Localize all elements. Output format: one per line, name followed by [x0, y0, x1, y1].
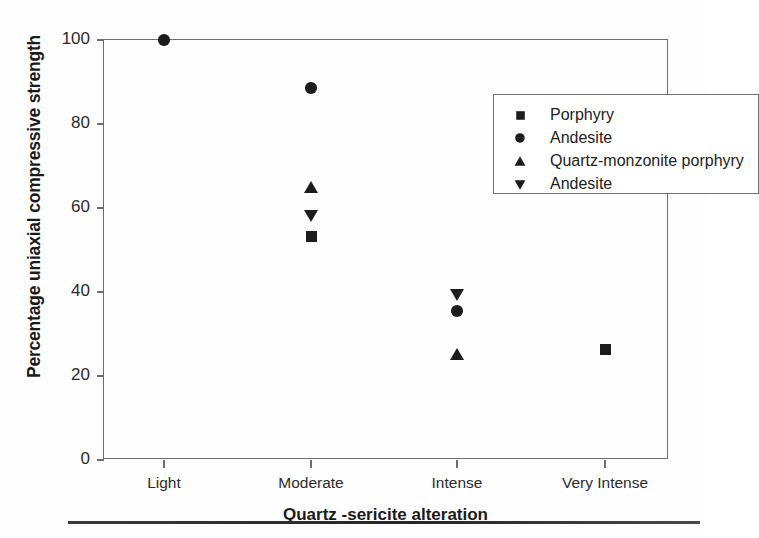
data-point-circle-icon [158, 34, 170, 46]
x-tick-label: Very Intense [525, 474, 685, 492]
legend-label: Porphyry [550, 104, 614, 126]
x-tick-label: Intense [377, 474, 537, 492]
x-tick-label: Moderate [231, 474, 391, 492]
triangle-down-icon [515, 180, 526, 189]
y-tick-mark [97, 39, 104, 40]
x-tick-mark [310, 460, 311, 468]
y-tick-mark [97, 291, 104, 292]
legend-item-2: Quartz-monzonite porphyry [494, 150, 758, 173]
data-point-circle-icon [451, 305, 463, 317]
legend-label: Andesite [550, 173, 612, 195]
page-edge [0, 534, 708, 538]
x-tick-label: Light [84, 474, 244, 492]
scan-artifact-bar [68, 521, 700, 524]
legend-item-1: Andesite [494, 127, 758, 150]
data-point-square-icon [306, 231, 317, 242]
legend-label: Andesite [550, 127, 612, 149]
y-tick-mark [97, 207, 104, 208]
chart-legend: PorphyryAndesiteQuartz-monzonite porphyr… [493, 94, 759, 194]
y-tick-label: 100 [30, 29, 90, 49]
plot-area: 020406080100 LightModerateIntenseVery In… [103, 39, 668, 459]
y-tick-label: 80 [30, 113, 90, 133]
legend-item-3: Andesite [494, 173, 758, 196]
data-point-triangle-up-icon [304, 181, 318, 193]
y-tick-mark [97, 459, 104, 460]
data-point-circle-icon [305, 82, 317, 94]
y-tick-label: 40 [30, 281, 90, 301]
y-tick-label: 0 [30, 449, 90, 469]
data-point-triangle-down-icon [450, 289, 464, 301]
data-point-triangle-up-icon [450, 348, 464, 360]
y-tick-mark [97, 123, 104, 124]
y-tick-mark [97, 375, 104, 376]
triangle-up-icon [515, 156, 526, 165]
y-tick-label: 60 [30, 197, 90, 217]
square-icon [516, 111, 525, 120]
legend-item-0: Porphyry [494, 104, 758, 127]
x-tick-mark [604, 460, 605, 468]
data-point-triangle-down-icon [304, 210, 318, 222]
y-tick-label: 20 [30, 365, 90, 385]
legend-label: Quartz-monzonite porphyry [550, 150, 744, 172]
data-point-square-icon [600, 344, 611, 355]
x-tick-mark [163, 460, 164, 468]
circle-icon [516, 134, 525, 143]
x-tick-mark [456, 460, 457, 468]
